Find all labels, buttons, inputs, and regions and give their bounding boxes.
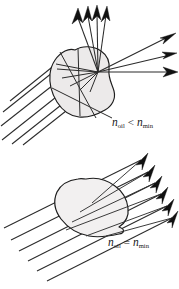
label-upper-sub1: oil	[118, 122, 125, 129]
label-upper-sub2: min	[143, 122, 154, 129]
label-lower-sub1: oil	[114, 242, 121, 249]
refractive-index-diagram: noil<nmin	[0, 0, 179, 289]
figure-root: noil<nmin	[0, 0, 179, 289]
figure-background	[0, 0, 179, 289]
label-lower-sub2: min	[139, 242, 150, 249]
label-upper-operator: <	[128, 116, 134, 128]
label-lower-operator: =	[124, 236, 130, 248]
